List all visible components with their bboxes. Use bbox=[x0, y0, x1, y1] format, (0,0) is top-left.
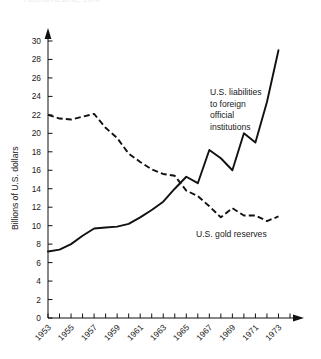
x-tick-label: 1957 bbox=[79, 322, 99, 342]
liabilities-label: U.S. liabilitiesto foreignofficialinstit… bbox=[210, 87, 262, 132]
gold-reserves-label: U.S. gold reserves bbox=[196, 229, 267, 239]
line-chart-svg: 024681012141618202224262830 195319551957… bbox=[0, 0, 321, 359]
y-tick-label: 22 bbox=[32, 110, 42, 120]
y-tick-label: 8 bbox=[36, 239, 41, 249]
x-tick-label: 1955 bbox=[56, 322, 76, 342]
y-tick-label: 12 bbox=[32, 202, 42, 212]
y-tick-label: 18 bbox=[32, 147, 42, 157]
series-line-liabilities bbox=[48, 50, 278, 251]
y-tick-label: 14 bbox=[32, 184, 42, 194]
y-tick-label: 10 bbox=[32, 221, 42, 231]
annotation-line: to foreign bbox=[210, 99, 246, 109]
x-tick-label: 1973 bbox=[263, 322, 283, 342]
x-axis-ticks bbox=[48, 314, 290, 319]
y-tick-label: 2 bbox=[36, 295, 41, 305]
y-tick-label: 30 bbox=[32, 36, 42, 46]
annotation-line: U.S. liabilities bbox=[210, 87, 262, 97]
y-tick-label: 4 bbox=[36, 276, 41, 286]
y-tick-label: 20 bbox=[32, 128, 42, 138]
annotation-line: U.S. gold reserves bbox=[196, 229, 267, 239]
chart-annotations: U.S. liabilitiesto foreignofficialinstit… bbox=[196, 87, 267, 239]
y-axis-arrowhead bbox=[45, 28, 52, 39]
x-tick-label: 1963 bbox=[148, 322, 168, 342]
clipped-caption: Federal Reserve, 1974 bbox=[24, 0, 99, 3]
y-tick-label: 0 bbox=[36, 313, 41, 323]
annotation-line: institutions bbox=[210, 122, 251, 132]
x-axis-arrowhead bbox=[293, 315, 304, 322]
x-tick-label: 1959 bbox=[102, 322, 122, 342]
y-axis-tick-labels: 024681012141618202224262830 bbox=[32, 36, 42, 323]
y-tick-label: 16 bbox=[32, 165, 42, 175]
x-tick-label: 1961 bbox=[125, 322, 145, 342]
chart-figure: Federal Reserve, 1974 024681012141618202… bbox=[0, 0, 321, 359]
y-tick-label: 24 bbox=[32, 91, 42, 101]
y-axis-ticks bbox=[48, 41, 53, 318]
y-tick-label: 26 bbox=[32, 73, 42, 83]
y-tick-label: 6 bbox=[36, 258, 41, 268]
x-tick-label: 1971 bbox=[240, 322, 260, 342]
x-tick-label: 1953 bbox=[33, 322, 53, 342]
x-tick-label: 1965 bbox=[171, 322, 191, 342]
annotation-line: official bbox=[210, 110, 234, 120]
x-tick-label: 1967 bbox=[194, 322, 214, 342]
x-tick-label: 1969 bbox=[217, 322, 237, 342]
y-tick-label: 28 bbox=[32, 54, 42, 64]
y-axis-title: Billions of U.S. dollars bbox=[10, 146, 20, 230]
x-axis-tick-labels: 1953195519571959196119631965196719691971… bbox=[33, 322, 284, 342]
